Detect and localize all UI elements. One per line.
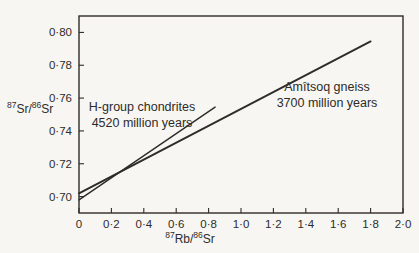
x-tick-label-9: 1·8 <box>362 218 379 230</box>
x-tick-label-10: 2·0 <box>395 218 412 230</box>
y-tick-label-4: 0·78 <box>49 59 72 71</box>
x-axis-label: 87Rb/86Sr <box>165 232 215 246</box>
x-axis-label-sup2: 86 <box>193 230 202 240</box>
x-tick-label-2: 0·4 <box>135 218 152 230</box>
x-tick-label-0: 0 <box>76 218 82 230</box>
x-axis-label-base2: Sr <box>203 232 215 246</box>
x-tick-label-8: 1·6 <box>330 218 347 230</box>
x-tick-label-6: 1·2 <box>265 218 282 230</box>
x-tick-label-1: 0·2 <box>103 218 120 230</box>
y-tick-label-2: 0·74 <box>49 125 73 137</box>
series-annotation-gneiss: Amîtsoq gneiss 3700 million years <box>277 79 378 111</box>
x-tick-label-5: 1·0 <box>233 218 250 230</box>
x-tick-label-3: 0·6 <box>168 218 185 230</box>
y-axis-label-base2: Sr <box>41 102 53 116</box>
x-axis-label-base1: Rb/ <box>175 232 194 246</box>
series-annotation-chondrites-name: H-group chondrites <box>89 99 195 115</box>
isochron-chart-svg: 00·20·40·60·81·01·21·41·61·82·00·700·720… <box>0 0 419 253</box>
isochron-figure: 00·20·40·60·81·01·21·41·61·82·00·700·720… <box>0 0 419 253</box>
series-annotation-gneiss-name: Amîtsoq gneiss <box>277 79 378 95</box>
x-tick-label-7: 1·4 <box>297 218 314 230</box>
x-tick-label-4: 0·8 <box>200 218 217 230</box>
series-annotation-chondrites: H-group chondrites 4520 million years <box>89 99 195 131</box>
y-axis-label-sup2: 86 <box>32 100 41 110</box>
series-annotation-gneiss-age: 3700 million years <box>277 95 378 111</box>
y-axis-label: 87Sr/86Sr <box>7 102 53 116</box>
y-tick-label-1: 0·72 <box>49 158 72 170</box>
y-tick-label-5: 0·80 <box>49 26 72 38</box>
series-annotation-chondrites-age: 4520 million years <box>89 115 195 131</box>
y-tick-label-0: 0·70 <box>49 191 72 203</box>
y-axis-label-base1: Sr/ <box>16 102 31 116</box>
